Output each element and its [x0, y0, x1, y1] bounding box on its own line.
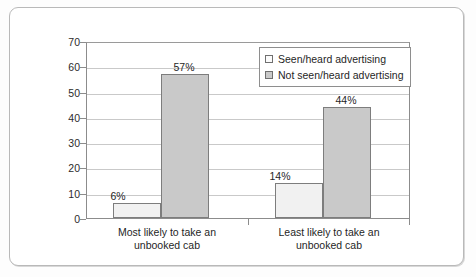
y-tick-label: 30 [54, 138, 80, 148]
bar-group1-seen [113, 203, 161, 218]
bar-group2-notseen [323, 107, 371, 218]
y-tick-mark [80, 118, 86, 119]
y-tick-mark [80, 219, 86, 220]
x-category-label-1: Most likely to take an unbooked cab [86, 226, 248, 252]
legend: Seen/heard advertising Not seen/heard ad… [259, 47, 411, 87]
bar-value-label-group2-notseen: 44% [316, 95, 376, 106]
bar-value-label-group1-seen: 6% [88, 191, 148, 202]
y-tick-mark [80, 168, 86, 169]
x-category-line: unbooked cab [248, 239, 410, 252]
x-category-line: unbooked cab [86, 239, 248, 252]
y-tick-mark [80, 93, 86, 94]
grouped-bar-chart: 70 60 50 40 30 20 10 0 [0, 0, 476, 277]
y-tick-label: 10 [54, 189, 80, 199]
x-category-label-2: Least likely to take an unbooked cab [248, 226, 410, 252]
y-tick-label: 0 [54, 214, 80, 224]
category-tick [248, 219, 249, 225]
bar-group1-notseen [161, 74, 209, 218]
category-tick [409, 219, 410, 225]
y-tick-label: 40 [54, 113, 80, 123]
y-tick-label: 60 [54, 62, 80, 72]
x-category-line: Most likely to take an [86, 226, 248, 239]
legend-label: Seen/heard advertising [278, 54, 386, 65]
legend-swatch-icon [265, 71, 273, 79]
y-tick-label: 50 [54, 88, 80, 98]
y-tick-label: 70 [54, 37, 80, 47]
bar-value-label-group1-notseen: 57% [154, 62, 214, 73]
y-tick-mark [80, 67, 86, 68]
bar-value-label-group2-seen: 14% [250, 171, 310, 182]
legend-item-notseen: Not seen/heard advertising [265, 68, 404, 82]
bar-group2-seen [275, 183, 323, 218]
y-axis-labels: 70 60 50 40 30 20 10 0 [52, 42, 80, 219]
y-tick-mark [80, 42, 86, 43]
chart-page: 70 60 50 40 30 20 10 0 [0, 0, 476, 277]
x-category-line: Least likely to take an [248, 226, 410, 239]
y-tick-label: 20 [54, 163, 80, 173]
legend-swatch-icon [265, 55, 273, 63]
legend-item-seen: Seen/heard advertising [265, 52, 404, 66]
y-tick-mark [80, 194, 86, 195]
legend-label: Not seen/heard advertising [278, 70, 404, 81]
y-tick-mark [80, 143, 86, 144]
